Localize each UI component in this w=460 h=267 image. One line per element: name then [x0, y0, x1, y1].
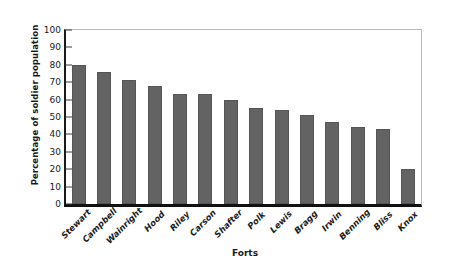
bar-slot [370, 30, 395, 204]
x-tick-label-hood: Hood [142, 209, 167, 234]
x-tick-slot: Stewart [64, 206, 89, 252]
y-tick-label: 100 [44, 25, 61, 35]
x-tick-label-shafter: Shafter [212, 207, 244, 239]
x-tick-slot: Bliss [368, 206, 393, 252]
y-tick-label: 0 [55, 199, 61, 209]
bar-slot [320, 30, 345, 204]
bar-slot [294, 30, 319, 204]
bar-bliss[interactable] [376, 129, 390, 204]
x-tick-slot: Benning [343, 206, 368, 252]
x-axis-title: Forts [0, 248, 460, 258]
bar-bragg[interactable] [300, 115, 314, 204]
bar-lewis[interactable] [275, 110, 289, 204]
bar-slot [218, 30, 243, 204]
bar-hood[interactable] [148, 86, 162, 204]
x-tick-slot: Wainright [115, 206, 140, 252]
y-tick-label: 40 [50, 129, 61, 139]
bar-slot [167, 30, 192, 204]
bar-slot [91, 30, 116, 204]
x-tick-label-knox: Knox [396, 209, 420, 233]
x-tick-slot: Knox [394, 206, 419, 252]
y-tick-label: 90 [50, 42, 61, 52]
x-tick-slot: Hood [140, 206, 165, 252]
x-tick-slot: Irwin [318, 206, 343, 252]
bar-stewart[interactable] [72, 65, 86, 204]
y-tick-label: 60 [50, 95, 61, 105]
bar-slot [396, 30, 421, 204]
x-tick-slot: Riley [165, 206, 190, 252]
x-tick-slot: Polk [242, 206, 267, 252]
bar-knox[interactable] [401, 169, 415, 204]
y-tick-label: 70 [50, 77, 61, 87]
bar-polk[interactable] [249, 108, 263, 204]
bars-group [66, 30, 421, 204]
y-axis-title: Percentage of soldier population [30, 10, 40, 200]
x-tick-slot: Shafter [216, 206, 241, 252]
x-tick-slot: Lewis [267, 206, 292, 252]
bar-slot [269, 30, 294, 204]
x-tick-label-bliss: Bliss [371, 209, 394, 232]
bar-benning[interactable] [351, 127, 365, 204]
bar-slot [244, 30, 269, 204]
bar-wainright[interactable] [122, 80, 136, 204]
bar-slot [345, 30, 370, 204]
y-tick-label: 20 [50, 164, 61, 174]
x-tick-label-polk: Polk [246, 210, 268, 232]
bar-campbell[interactable] [97, 72, 111, 204]
x-axis-ticks: StewartCampbellWainrightHoodRileyCarsonS… [64, 206, 419, 252]
y-tick-label: 80 [50, 60, 61, 70]
y-tick-label: 10 [50, 182, 61, 192]
x-tick-slot: Carson [191, 206, 216, 252]
bar-slot [117, 30, 142, 204]
plot-area: 1009080706050403020100 [64, 29, 422, 207]
bar-slot [142, 30, 167, 204]
bar-slot [193, 30, 218, 204]
bar-chart: Percentage of soldier population 1009080… [0, 0, 460, 267]
bar-riley[interactable] [173, 94, 187, 204]
bar-shafter[interactable] [224, 100, 238, 204]
y-tick-label: 30 [50, 147, 61, 157]
y-tick-label: 50 [50, 112, 61, 122]
x-tick-slot: Bragg [292, 206, 317, 252]
x-tick-label-bragg: Bragg [292, 208, 319, 235]
bar-slot [66, 30, 91, 204]
x-tick-label-lewis: Lewis [267, 209, 293, 235]
bar-irwin[interactable] [325, 122, 339, 204]
bar-carson[interactable] [198, 94, 212, 204]
